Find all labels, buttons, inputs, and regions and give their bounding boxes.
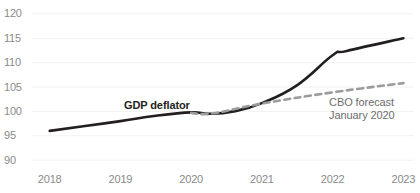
x-axis-tick-2021: 2021: [250, 174, 274, 185]
cbo-forecast-date-text: January 2020: [329, 109, 394, 122]
y-axis-tick-105: 105: [4, 82, 22, 93]
series-label-cbo-forecast: CBO forecast January 2020: [329, 96, 394, 122]
line-chart: 1201151101051009590 20182019202020212022…: [0, 0, 420, 193]
cbo-forecast-label-text: CBO forecast: [329, 96, 394, 108]
y-axis-tick-95: 95: [4, 130, 16, 141]
y-axis-tick-90: 90: [4, 155, 16, 166]
x-axis-tick-2020: 2020: [179, 174, 203, 185]
series-label-gdp-deflator: GDP deflator: [124, 99, 190, 112]
gridlines: [32, 14, 414, 160]
x-axis-tick-2022: 2022: [321, 174, 345, 185]
y-axis-tick-115: 115: [4, 33, 21, 44]
x-axis-tick-2023: 2023: [392, 174, 416, 185]
x-axis-tick-2018: 2018: [38, 174, 62, 185]
y-axis-tick-100: 100: [4, 106, 22, 117]
gdp-deflator-label-text: GDP deflator: [124, 99, 190, 111]
y-axis-tick-110: 110: [4, 57, 21, 68]
x-axis-tick-2019: 2019: [109, 174, 133, 185]
y-axis-tick-120: 120: [4, 8, 22, 19]
